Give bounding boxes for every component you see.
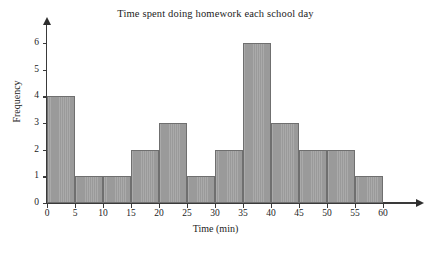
x-tick-label: 50: [312, 208, 342, 218]
x-tick: [299, 204, 300, 208]
y-tick: [43, 96, 47, 97]
x-tick-label: 0: [32, 208, 62, 218]
histogram-bar: [75, 176, 103, 203]
y-tick-label: 4: [24, 90, 39, 100]
y-axis-arrow-icon: [43, 17, 51, 25]
histogram-bar: [355, 176, 383, 203]
histogram-bar: [47, 96, 75, 203]
y-tick: [43, 176, 47, 177]
x-tick: [47, 204, 48, 208]
histogram-bar: [131, 150, 159, 203]
x-axis-label: Time (min): [0, 223, 431, 234]
x-tick-label: 55: [340, 208, 370, 218]
histogram-bar: [243, 43, 271, 203]
x-tick: [327, 204, 328, 208]
x-tick-label: 10: [88, 208, 118, 218]
x-tick: [271, 204, 272, 208]
x-tick-label: 20: [144, 208, 174, 218]
x-tick-label: 40: [256, 208, 286, 218]
y-tick-label: 3: [24, 117, 39, 127]
chart-title: Time spent doing homework each school da…: [0, 8, 431, 19]
x-tick: [75, 204, 76, 208]
x-axis-arrow-icon: [416, 199, 424, 207]
histogram-bar: [215, 150, 243, 203]
x-tick: [355, 204, 356, 208]
y-tick-label: 1: [24, 170, 39, 180]
histogram-bar: [327, 150, 355, 203]
y-tick: [43, 70, 47, 71]
x-tick: [243, 204, 244, 208]
x-tick-label: 60: [368, 208, 398, 218]
y-tick-label: 5: [24, 64, 39, 74]
y-tick: [43, 150, 47, 151]
x-tick: [383, 204, 384, 208]
histogram-bar: [159, 123, 187, 203]
x-tick: [215, 204, 216, 208]
y-axis-label: Frequency: [11, 62, 22, 142]
y-tick-label: 0: [24, 197, 39, 207]
x-tick-label: 45: [284, 208, 314, 218]
histogram-bar: [271, 123, 299, 203]
y-tick: [43, 43, 47, 44]
x-tick-label: 15: [116, 208, 146, 218]
y-tick: [43, 203, 47, 204]
x-tick-label: 25: [172, 208, 202, 218]
y-tick-label: 2: [24, 144, 39, 154]
x-tick: [103, 204, 104, 208]
x-tick: [131, 204, 132, 208]
x-tick-label: 30: [200, 208, 230, 218]
plot-area: [47, 43, 383, 203]
x-tick-label: 5: [60, 208, 90, 218]
histogram-bar: [103, 176, 131, 203]
histogram-bar: [187, 176, 215, 203]
x-tick: [159, 204, 160, 208]
y-tick: [43, 123, 47, 124]
histogram-bar: [299, 150, 327, 203]
histogram-figure: Time spent doing homework each school da…: [0, 0, 431, 254]
x-tick: [187, 204, 188, 208]
y-tick-label: 6: [24, 37, 39, 47]
x-tick-label: 35: [228, 208, 258, 218]
